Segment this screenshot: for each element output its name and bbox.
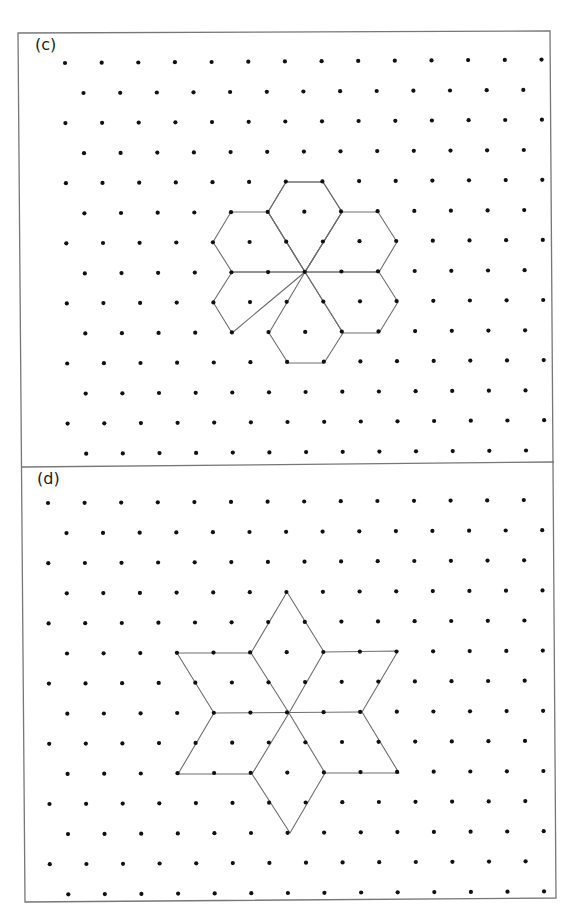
lattice-dot xyxy=(139,421,143,425)
lattice-dot xyxy=(284,240,288,244)
lattice-dot xyxy=(174,530,178,534)
lattice-dot xyxy=(321,530,325,534)
lattice-dot xyxy=(395,830,399,834)
lattice-dot xyxy=(266,680,270,684)
lattice-dot xyxy=(340,800,344,804)
lattice-dot xyxy=(540,178,544,182)
lattice-dot xyxy=(542,889,546,893)
lattice-dot xyxy=(46,501,50,505)
lattice-dot xyxy=(542,418,546,422)
lattice-dot xyxy=(505,298,509,302)
lattice-dot xyxy=(303,620,307,624)
lattice-dot xyxy=(523,739,527,743)
lattice-dot xyxy=(246,60,250,64)
lattice-dot xyxy=(102,772,106,776)
lattice-dot xyxy=(249,831,253,835)
lattice-dot xyxy=(65,712,69,716)
lattice-dot xyxy=(248,650,252,654)
lattice-dot xyxy=(66,422,70,426)
lattice-dot xyxy=(120,331,124,335)
lattice-dot xyxy=(467,529,471,533)
lattice-dot xyxy=(230,680,234,684)
lattice-dot xyxy=(430,118,434,122)
lattice-dot xyxy=(450,389,454,393)
lattice-dot xyxy=(450,860,454,864)
lattice-dot xyxy=(414,860,418,864)
lattice-dot xyxy=(522,618,526,622)
lattice-dot xyxy=(357,239,361,243)
lattice-dot xyxy=(377,860,381,864)
hexagon-bottom xyxy=(269,272,343,363)
lattice-dot xyxy=(322,891,326,895)
lattice-dot xyxy=(412,559,416,563)
lattice-dot xyxy=(231,451,235,455)
lattice-dot xyxy=(357,119,361,123)
lattice-dot xyxy=(541,709,545,713)
lattice-dot xyxy=(138,241,142,245)
lattice-dot xyxy=(505,829,509,833)
lattice-dot xyxy=(340,390,344,394)
lattice-dot xyxy=(448,149,452,153)
lattice-dot xyxy=(47,742,51,746)
lattice-dot xyxy=(359,830,363,834)
lattice-dot xyxy=(395,299,399,303)
hexagon-lower-left xyxy=(213,272,305,333)
lattice-dot xyxy=(358,359,362,363)
lattice-dot xyxy=(377,800,381,804)
lattice-dot xyxy=(193,271,197,275)
lattice-dot xyxy=(212,771,216,775)
lattice-dot xyxy=(486,208,490,212)
lattice-dot xyxy=(192,210,196,214)
lattice-dot xyxy=(504,178,508,182)
lattice-dot xyxy=(541,649,545,653)
lattice-dot xyxy=(430,529,434,533)
lattice-dot xyxy=(248,360,252,364)
lattice-dot xyxy=(210,180,214,184)
lattice-dot xyxy=(413,269,417,273)
lattice-dot xyxy=(63,61,67,65)
lattice-dot xyxy=(210,120,214,124)
lattice-dot xyxy=(468,359,472,363)
lattice-dot xyxy=(376,680,380,684)
lattice-dot xyxy=(175,361,179,365)
lattice-dot xyxy=(194,861,198,865)
lattice-dot xyxy=(48,862,52,866)
panel-divider xyxy=(22,462,554,467)
lattice-dot xyxy=(191,90,195,94)
lattice-dot xyxy=(230,330,234,334)
lattice-dot xyxy=(247,180,251,184)
lattice-dot xyxy=(321,650,325,654)
lattice-dot xyxy=(119,561,123,565)
lattice-dot xyxy=(84,392,88,396)
lattice-dot xyxy=(119,501,123,505)
lattice-dot xyxy=(338,89,342,93)
lattice-dot xyxy=(322,710,326,714)
lattice-dot xyxy=(431,239,435,243)
lattice-dot xyxy=(249,420,253,424)
lattice-dot xyxy=(84,802,88,806)
lattice-dot xyxy=(505,418,509,422)
lattice-dot xyxy=(247,530,251,534)
lattice-dot xyxy=(321,590,325,594)
panel-c-label: (c) xyxy=(35,37,56,53)
lattice-dot xyxy=(449,209,453,213)
lattice-dot xyxy=(413,800,417,804)
lattice-dot xyxy=(432,359,436,363)
lattice-dot xyxy=(229,210,233,214)
lattice-dot xyxy=(450,739,454,743)
lattice-dot xyxy=(267,740,271,744)
lattice-dot xyxy=(65,651,69,655)
lattice-dot xyxy=(248,711,252,715)
lattice-dot xyxy=(175,591,179,595)
lattice-dot xyxy=(504,528,508,532)
lattice-dot xyxy=(394,589,398,593)
lattice-dot xyxy=(338,149,342,153)
lattice-dot xyxy=(101,301,105,305)
lattice-dot xyxy=(103,892,107,896)
lattice-dot xyxy=(249,891,253,895)
lattice-dot xyxy=(64,241,68,245)
lattice-dot xyxy=(286,891,290,895)
lattice-dot xyxy=(230,390,234,394)
lattice-dot xyxy=(101,241,105,245)
lattice-dot xyxy=(395,710,399,714)
